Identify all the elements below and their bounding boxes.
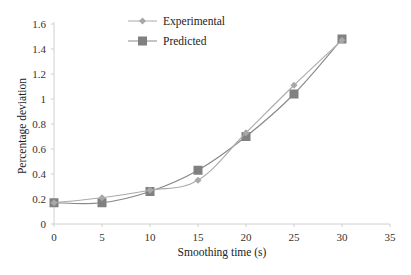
series-experimental xyxy=(51,37,346,207)
x-tick-label: 35 xyxy=(385,231,397,243)
square-marker-icon xyxy=(290,90,299,99)
diamond-marker-icon xyxy=(139,18,146,25)
x-tick-label: 20 xyxy=(241,231,253,243)
legend-label-predicted: Predicted xyxy=(163,35,207,47)
y-tick-label: 1 xyxy=(41,93,47,105)
y-tick-label: 0.6 xyxy=(32,143,46,155)
square-marker-icon xyxy=(194,166,203,175)
y-tick-label: 0.8 xyxy=(32,118,46,130)
tick-labels: 0510152025303500.20.40.60.811.21.41.6 xyxy=(32,18,396,243)
x-tick-label: 30 xyxy=(337,231,349,243)
y-axis-title: Percentage deviation xyxy=(16,78,29,174)
legend-label-experimental: Experimental xyxy=(163,15,225,28)
x-tick-label: 0 xyxy=(51,231,57,243)
y-tick-label: 1.4 xyxy=(32,43,46,55)
y-tick-label: 1.2 xyxy=(32,68,46,80)
y-tick-label: 0 xyxy=(41,218,47,230)
y-tick-label: 1.6 xyxy=(32,18,46,30)
diamond-marker-icon xyxy=(195,177,202,184)
y-tick-label: 0.2 xyxy=(32,193,46,205)
line-chart: 0510152025303500.20.40.60.811.21.41.6 Ex… xyxy=(0,0,411,275)
legend-item-predicted: Predicted xyxy=(128,35,207,47)
x-tick-label: 10 xyxy=(145,231,157,243)
x-tick-label: 5 xyxy=(99,231,105,243)
square-marker-icon xyxy=(138,37,147,46)
y-tick-label: 0.4 xyxy=(32,168,46,180)
legend: Experimental Predicted xyxy=(128,15,225,47)
legend-item-experimental: Experimental xyxy=(128,15,225,28)
x-tick-label: 25 xyxy=(289,231,301,243)
x-axis-title: Smoothing time (s) xyxy=(178,246,267,259)
data-series xyxy=(50,35,347,208)
x-tick-label: 15 xyxy=(193,231,205,243)
